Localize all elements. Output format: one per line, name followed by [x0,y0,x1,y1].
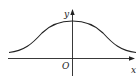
function-graph: x y O [0,0,139,79]
x-axis-label: x [131,65,136,75]
origin-label: O [62,61,70,71]
y-axis-label: y [63,9,70,19]
